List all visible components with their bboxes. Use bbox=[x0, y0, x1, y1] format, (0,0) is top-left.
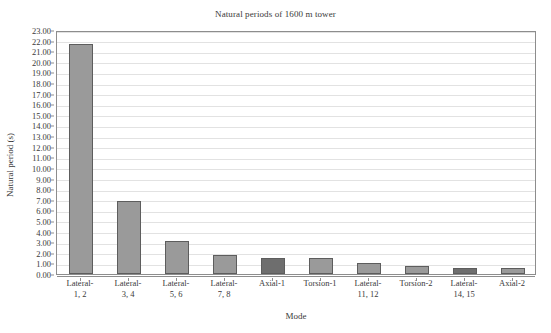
y-tick-mark bbox=[51, 137, 54, 138]
x-tick-label: Lateral-14, 15 bbox=[451, 278, 478, 300]
y-tick-label: 21.00 bbox=[32, 48, 51, 57]
y-tick-mark bbox=[51, 115, 54, 116]
bar bbox=[213, 255, 238, 274]
x-tick-label-line1: Torsion-2 bbox=[400, 278, 433, 288]
x-tick-label-line1: Torsion-1 bbox=[304, 278, 337, 288]
y-tick-label: 5.00 bbox=[36, 218, 51, 227]
y-tick-label: 13.00 bbox=[32, 133, 51, 142]
y-tick-mark bbox=[51, 179, 54, 180]
bar bbox=[405, 266, 430, 274]
bar bbox=[165, 241, 190, 274]
y-tick-label: 4.00 bbox=[36, 228, 51, 237]
y-tick-mark bbox=[51, 253, 54, 254]
y-tick-label: 9.00 bbox=[36, 175, 51, 184]
y-tick-label: 2.00 bbox=[36, 250, 51, 259]
x-tick-label: Lateral-1, 2 bbox=[67, 278, 94, 300]
y-tick-label: 14.00 bbox=[32, 122, 51, 131]
y-tick-mark bbox=[51, 52, 54, 53]
x-tick-label: Lateral-7, 8 bbox=[211, 278, 238, 300]
y-tick-mark bbox=[51, 73, 54, 74]
y-tick-mark bbox=[51, 62, 54, 63]
y-tick-label: 6.00 bbox=[36, 207, 51, 216]
x-tick-label-line2: 3, 4 bbox=[115, 289, 142, 300]
y-tick-mark bbox=[51, 264, 54, 265]
y-tick-label: 18.00 bbox=[32, 80, 51, 89]
bar bbox=[453, 268, 478, 274]
x-axis-title: Mode bbox=[56, 311, 536, 321]
y-tick-mark bbox=[51, 147, 54, 148]
y-tick-mark bbox=[51, 168, 54, 169]
y-tick-label: 15.00 bbox=[32, 112, 51, 121]
bar bbox=[501, 268, 526, 274]
y-tick-label: 23.00 bbox=[32, 27, 51, 36]
bar bbox=[117, 201, 142, 274]
bar-series bbox=[57, 32, 535, 274]
y-tick-mark bbox=[51, 243, 54, 244]
bar bbox=[357, 263, 382, 274]
x-axis-tick-labels: Lateral-1, 2Lateral-3, 4Lateral-5, 6Late… bbox=[56, 278, 536, 310]
x-tick-label-line1: Lateral- bbox=[451, 278, 478, 288]
x-tick-label: Axial-1 bbox=[259, 278, 285, 289]
x-tick-label: Torsion-2 bbox=[400, 278, 433, 289]
bar bbox=[309, 258, 334, 274]
y-tick-label: 19.00 bbox=[32, 69, 51, 78]
y-tick-mark bbox=[51, 84, 54, 85]
y-tick-mark bbox=[51, 232, 54, 233]
x-tick-label: Lateral-5, 6 bbox=[163, 278, 190, 300]
y-tick-mark bbox=[51, 31, 54, 32]
chart-title: Natural periods of 1600 m tower bbox=[0, 9, 551, 19]
y-tick-mark bbox=[51, 275, 54, 276]
y-tick-label: 8.00 bbox=[36, 186, 51, 195]
y-tick-label: 3.00 bbox=[36, 239, 51, 248]
x-tick-label: Lateral-3, 4 bbox=[115, 278, 142, 300]
y-tick-mark bbox=[51, 105, 54, 106]
x-tick-label: Lateral-11, 12 bbox=[355, 278, 382, 300]
y-tick-label: 7.00 bbox=[36, 196, 51, 205]
x-tick-label-line2: 7, 8 bbox=[211, 289, 238, 300]
plot-area bbox=[56, 31, 536, 275]
y-tick-label: 1.00 bbox=[36, 260, 51, 269]
y-tick-mark bbox=[51, 190, 54, 191]
x-tick-label-line1: Axial-2 bbox=[499, 278, 525, 288]
y-tick-mark bbox=[51, 158, 54, 159]
y-tick-label: 16.00 bbox=[32, 101, 51, 110]
y-tick-label: 10.00 bbox=[32, 165, 51, 174]
x-tick-label: Axial-2 bbox=[499, 278, 525, 289]
x-tick-label-line1: Lateral- bbox=[211, 278, 238, 288]
y-tick-label: 22.00 bbox=[32, 37, 51, 46]
y-tick-mark bbox=[51, 41, 54, 42]
chart-figure: Natural periods of 1600 m tower Natural … bbox=[0, 0, 551, 333]
y-tick-label: 0.00 bbox=[36, 271, 51, 280]
y-tick-label: 17.00 bbox=[32, 90, 51, 99]
gridline bbox=[57, 276, 535, 277]
y-tick-mark bbox=[51, 211, 54, 212]
y-tick-label: 12.00 bbox=[32, 143, 51, 152]
y-tick-mark bbox=[51, 221, 54, 222]
y-tick-mark bbox=[51, 200, 54, 201]
y-tick-mark bbox=[51, 126, 54, 127]
x-tick-label-line2: 5, 6 bbox=[163, 289, 190, 300]
x-tick-label-line2: 11, 12 bbox=[355, 289, 382, 300]
x-tick-label-line1: Lateral- bbox=[115, 278, 142, 288]
x-tick-label-line1: Lateral- bbox=[67, 278, 94, 288]
x-tick-label-line1: Lateral- bbox=[355, 278, 382, 288]
x-tick-label-line2: 14, 15 bbox=[451, 289, 478, 300]
x-tick-label: Torsion-1 bbox=[304, 278, 337, 289]
y-tick-label: 11.00 bbox=[32, 154, 51, 163]
bar bbox=[261, 258, 286, 274]
x-tick-label-line2: 1, 2 bbox=[67, 289, 94, 300]
x-tick-label-line1: Axial-1 bbox=[259, 278, 285, 288]
y-axis-tick-labels: 23.0022.0021.0020.0019.0018.0017.0016.00… bbox=[0, 31, 54, 275]
x-tick-label-line1: Lateral- bbox=[163, 278, 190, 288]
bar bbox=[69, 44, 94, 274]
y-tick-mark bbox=[51, 94, 54, 95]
y-tick-label: 20.00 bbox=[32, 59, 51, 68]
